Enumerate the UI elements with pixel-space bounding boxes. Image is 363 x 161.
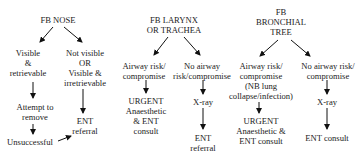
- arrow-unsuccessful-to-ent: [58, 136, 71, 141]
- arrow-larynx-to-risk: [154, 37, 168, 55]
- arrow-nose-to-not-visible: [64, 27, 82, 42]
- arrow-bronchial-to-risk: [260, 40, 278, 56]
- arrow-nose-to-visible: [40, 27, 53, 42]
- arrow-bronchial-to-norisk: [291, 40, 310, 56]
- arrow-larynx-to-norisk: [184, 37, 200, 55]
- flow-arrows: [0, 0, 363, 161]
